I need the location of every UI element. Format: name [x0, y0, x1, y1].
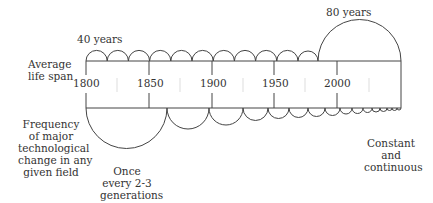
label-40-years: 40 years	[77, 33, 123, 45]
year-2000: 2000	[324, 77, 351, 89]
life-span-arc-80	[318, 20, 401, 62]
label-frequency-tech-change: Frequency of major technological change …	[18, 118, 84, 178]
year-1950: 1950	[262, 77, 289, 89]
label-average-life-span: Average life span	[28, 58, 64, 82]
label-once-every-generations: Once every 2-3 generations	[100, 165, 154, 201]
year-1850: 1850	[137, 77, 164, 89]
label-constant-continuous: Constant and continuous	[364, 137, 418, 173]
technology-change-diagram: 40 years 80 years Average life span 1800…	[0, 0, 433, 203]
life-span-arcs-40	[86, 50, 318, 61]
year-1900: 1900	[200, 77, 227, 89]
label-80-years: 80 years	[326, 6, 372, 18]
year-1800: 1800	[73, 77, 100, 89]
tech-change-arcs	[86, 108, 401, 149]
